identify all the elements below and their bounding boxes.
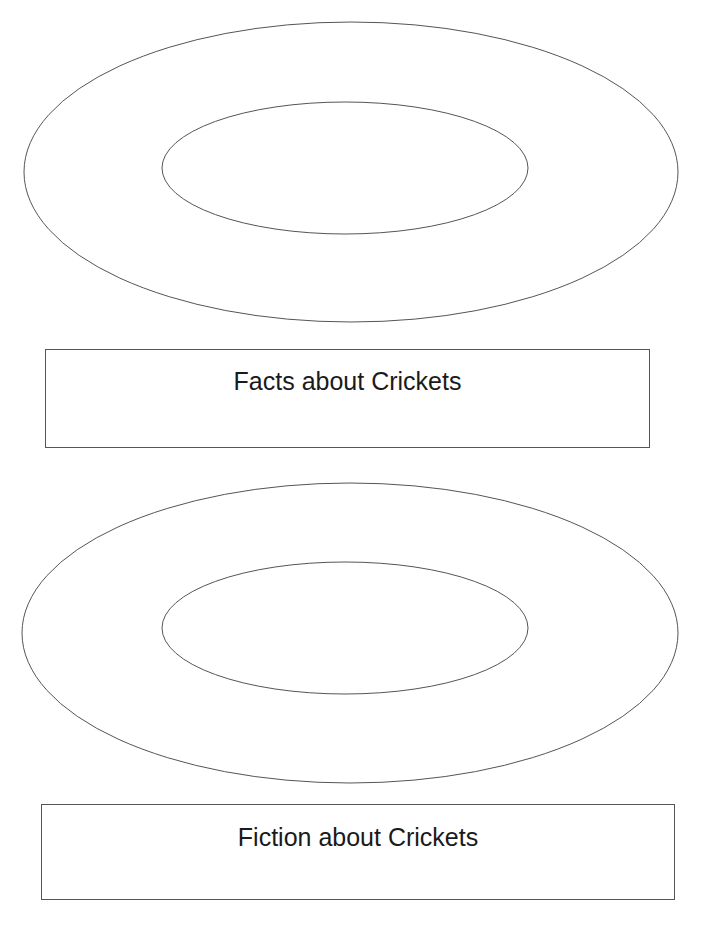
facts-outer-ring[interactable] — [24, 22, 678, 322]
facts-inner-ring[interactable] — [162, 102, 528, 234]
fiction-label-box[interactable]: Fiction about Crickets — [41, 804, 675, 900]
fiction-outer-ring[interactable] — [22, 483, 678, 783]
facts-title: Facts about Crickets — [46, 367, 649, 396]
ring-diagrams — [0, 0, 702, 925]
fiction-inner-ring[interactable] — [162, 562, 528, 694]
fiction-title: Fiction about Crickets — [42, 823, 674, 852]
fiction-rings — [22, 483, 678, 783]
facts-rings — [24, 22, 678, 322]
facts-label-box[interactable]: Facts about Crickets — [45, 349, 650, 448]
